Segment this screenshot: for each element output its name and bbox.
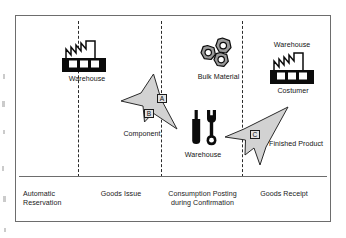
phase-caption-automatic-reservation: Automatic Reservation	[23, 190, 83, 209]
phase-axis-rule	[19, 176, 327, 177]
component-label: Component	[109, 130, 175, 139]
factory-icon	[270, 52, 314, 85]
bulk-material-label: Bulk Material	[191, 73, 246, 82]
scan-artifact	[3, 74, 5, 79]
scan-artifact	[2, 101, 5, 107]
destination-warehouse-bottom-label: Costumer	[265, 87, 321, 96]
step-marker-b: B	[144, 109, 154, 118]
diagram-canvas: Warehouse A B Component	[16, 16, 330, 221]
step-marker-a: A	[157, 94, 167, 103]
hex-nuts-icon	[199, 37, 235, 70]
scan-artifact	[3, 130, 5, 134]
finished-product-label: Finished Product	[269, 140, 331, 149]
component-flow-arrow	[120, 73, 182, 132]
phase-caption-goods-receipt: Goods Receipt	[243, 190, 325, 199]
phase-caption-consumption-posting: Consumption Posting during Confirmation	[162, 190, 243, 209]
phase-caption-goods-issue: Goods Issue	[80, 190, 162, 199]
scan-artifact	[4, 228, 6, 232]
step-marker-c: C	[250, 130, 260, 139]
diagram-frame: Warehouse A B Component	[15, 15, 331, 222]
phase-caption-row: Automatic Reservation Goods Issue Consum…	[16, 179, 330, 219]
tools-icon	[186, 110, 220, 148]
factory-icon	[62, 40, 106, 73]
figure-root: Warehouse A B Component	[0, 0, 346, 238]
scan-artifact	[3, 196, 6, 202]
source-warehouse-label: Warehouse	[62, 75, 112, 84]
destination-warehouse-top-label: Warehouse	[263, 41, 321, 50]
tools-warehouse-label: Warehouse	[175, 151, 231, 160]
scan-artifact	[2, 166, 4, 171]
